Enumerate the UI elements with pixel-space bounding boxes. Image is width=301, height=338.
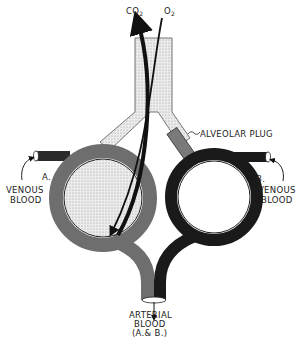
o2-label: O2: [164, 6, 175, 17]
venous-blood-right-label-2: BLOOD: [261, 195, 293, 205]
plug-pointer: [188, 132, 200, 135]
alveolar-plug-label: ALVEOLAR PLUG: [200, 129, 273, 139]
venous-blood-left-label-2: BLOOD: [10, 195, 42, 205]
alveolus-a-label: A.: [42, 172, 51, 182]
alveolus-a: [64, 159, 142, 237]
alveolus-b: [178, 161, 250, 233]
venous-blood-left-label: VENOUS: [6, 185, 44, 195]
alveolar-gas-exchange-diagram: CO2 O2 ALVEOLAR PLUG A. B. VENOUS BLOOD …: [0, 0, 301, 338]
co2-label: CO2: [126, 6, 143, 17]
venous-arrow-right-icon: [272, 160, 283, 181]
arterial-blood-label-3: (A.& B.): [132, 328, 167, 338]
venous-blood-right-label: VENOUS: [258, 185, 296, 195]
venous-arrow-left-icon: [22, 158, 32, 180]
alveolus-b-label: B.: [256, 174, 265, 184]
